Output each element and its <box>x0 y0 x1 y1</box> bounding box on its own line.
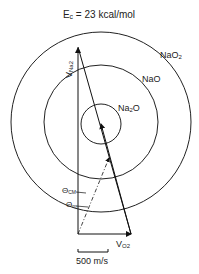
circle-nao <box>44 65 158 179</box>
label-na2o: Na2O <box>118 103 140 113</box>
label-v-o2: VO2 <box>116 239 131 249</box>
scale-bar <box>78 249 108 252</box>
collision-energy-title: Ec = 23 kcal/mol <box>63 9 135 20</box>
label-theta-cm: ΘCM <box>62 186 76 195</box>
newton-diagram: Ec = 23 kcal/mol NaO2 NaO Na2O VNa2 VO2 … <box>0 0 199 274</box>
label-nao: NaO <box>142 74 161 84</box>
label-nao2: NaO2 <box>160 50 183 60</box>
label-theta-m: Θm <box>66 200 76 209</box>
product-velocity-dashed <box>78 158 109 234</box>
scale-bar-label: 500 m/s <box>76 256 109 266</box>
label-v-na2: VNa2 <box>64 60 74 78</box>
